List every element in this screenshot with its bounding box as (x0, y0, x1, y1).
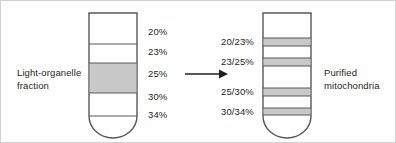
tick-label-25pct: 25% (148, 68, 167, 79)
band-25-30 (264, 88, 311, 96)
tick-label-25-30pct: 25/30% (221, 86, 254, 97)
light-organelle-band (90, 63, 137, 93)
tick-label-34pct: 34% (148, 109, 167, 120)
right-caption-line-2: mitochondria (324, 80, 380, 93)
arrow-head (219, 70, 228, 79)
left-caption-line-2: fraction (17, 80, 81, 93)
band-23-25 (264, 58, 311, 66)
tick-label-20-23pct: 20/23% (221, 36, 254, 47)
band-20-23 (264, 38, 311, 46)
tick-label-20pct: 20% (148, 26, 167, 37)
tick-label-23pct: 23% (148, 46, 167, 57)
gradient-tube-before (87, 9, 143, 139)
right-caption-line-1: Purified (324, 67, 380, 80)
right-tube-caption: Purified mitochondria (324, 67, 380, 92)
tube-outline-after (263, 13, 311, 138)
left-tube-caption: Light-organelle fraction (17, 67, 81, 92)
band-30-34 (264, 108, 311, 115)
tick-label-30pct: 30% (148, 91, 167, 102)
sucrose-gradient-figure: Light-organelle fraction 20% 23% 25% 30%… (0, 0, 396, 143)
left-caption-line-1: Light-organelle (17, 67, 81, 80)
tick-label-30-34pct: 30/34% (221, 106, 254, 117)
transfer-arrow (185, 67, 229, 85)
gradient-tube-after (261, 9, 317, 139)
tick-label-23-25pct: 23/25% (221, 56, 254, 67)
